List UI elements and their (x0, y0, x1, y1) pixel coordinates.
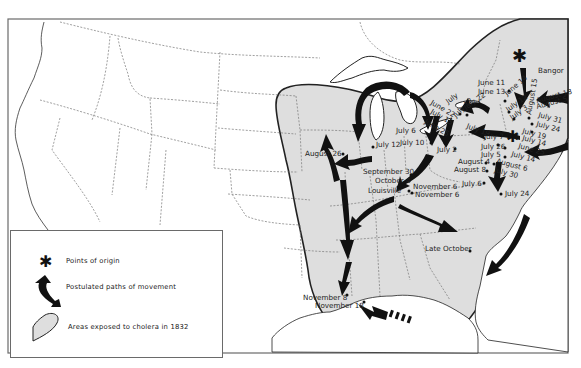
label-july-10: July 10 (399, 138, 425, 147)
label-late-october: Late October (425, 244, 472, 253)
label-july-24-va: July 24 (504, 189, 530, 198)
label-september-30: September 30 (363, 167, 415, 176)
label-august-8: August 8 (454, 165, 486, 174)
label-july-6-va: July 6 (461, 179, 482, 188)
label-august-26: August 26 (305, 149, 342, 158)
legend-label: Postulated paths of movement (66, 283, 176, 291)
label-bangor: Bangor (538, 66, 564, 75)
label-june-11: June 11 (477, 78, 505, 87)
legend: ✱ Points of origin Postulated paths of m… (10, 230, 223, 358)
lake-michigan (370, 92, 384, 140)
label-louisville: Louisville (368, 186, 402, 195)
label-july-6-mi: July 6 (395, 126, 416, 135)
label-july-7: July 7 (483, 132, 504, 141)
label-october-4: October 4 (375, 176, 411, 185)
label-july-2: July 2 (436, 145, 457, 154)
label-november-18: November 18 (315, 301, 364, 310)
pacific-coast (15, 22, 48, 230)
lake-superior (330, 56, 408, 82)
shaded-area-icon (31, 311, 63, 343)
origin-asterisk-icon-canada: ✱ (512, 45, 527, 66)
asterisk-icon: ✱ (39, 252, 52, 271)
legend-label: Points of origin (66, 257, 120, 265)
label-november-6-b: November 6 (415, 190, 460, 199)
origin-asterisk-icon-ny: ✱ (506, 127, 519, 146)
curved-arrow-icon (31, 273, 65, 309)
legend-label: Areas exposed to cholera in 1832 (68, 323, 189, 331)
label-july-12-chi: July 12 (375, 140, 400, 149)
